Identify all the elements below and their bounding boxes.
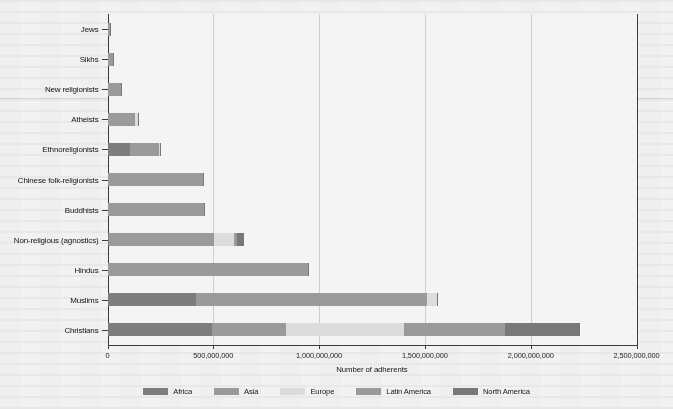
legend-item-europe[interactable]: Europe	[280, 387, 356, 396]
x-tick-label: 1,500,000,000	[402, 351, 448, 360]
bar-atheists	[108, 113, 139, 126]
bar-segment-asia	[108, 203, 203, 216]
x-tick-mark	[637, 345, 638, 349]
bar-segment-north-america	[237, 233, 244, 246]
legend-label: Latin America	[386, 387, 431, 396]
bar-chinese-folk-religionists	[108, 173, 204, 186]
right-axis-line	[637, 14, 638, 345]
y-category-label: Sikhs	[80, 55, 99, 64]
stacked-bar-chart: JewsSikhsNew religionistsAtheistsEthnore…	[0, 0, 673, 409]
x-tick-label: 2,500,000,000	[614, 351, 660, 360]
chart-legend: AfricaAsiaEuropeLatin AmericaNorth Ameri…	[0, 387, 673, 396]
y-tick-mark	[102, 210, 108, 211]
legend-label: Europe	[310, 387, 334, 396]
bar-christians	[108, 323, 581, 336]
gridline	[531, 14, 532, 345]
bar-segment-europe	[286, 323, 403, 336]
bar-segment-asia	[108, 113, 136, 126]
y-category-label: Jews	[81, 25, 99, 34]
bar-jews	[108, 23, 111, 36]
bar-hindus	[108, 263, 309, 276]
bar-segment-north-america	[505, 323, 580, 336]
y-tick-mark	[102, 59, 108, 60]
y-category-label: Ethnoreligionists	[42, 145, 98, 154]
y-tick-mark	[102, 119, 108, 120]
bar-segment-asia	[108, 173, 203, 186]
legend-swatch-icon	[356, 388, 381, 395]
y-category-label: Chinese folk-religionists	[18, 175, 99, 184]
y-tick-mark	[102, 330, 108, 331]
bar-segment-north-america	[204, 203, 205, 216]
y-tick-mark	[102, 270, 108, 271]
y-tick-mark	[102, 149, 108, 150]
legend-swatch-icon	[453, 388, 478, 395]
bar-muslims	[108, 293, 439, 306]
y-category-label: Christians	[64, 325, 98, 334]
y-tick-mark	[102, 240, 108, 241]
legend-item-asia[interactable]: Asia	[214, 387, 280, 396]
y-category-label: Non-religious (agnostics)	[14, 235, 99, 244]
x-axis-title: Number of adherents	[336, 365, 407, 374]
x-tick-label: 2,000,000,000	[508, 351, 554, 360]
y-category-label: New religionists	[45, 85, 99, 94]
legend-swatch-icon	[214, 388, 239, 395]
bar-segment-europe	[427, 293, 437, 306]
legend-swatch-icon	[143, 388, 168, 395]
bar-segment-north-america	[110, 23, 111, 36]
y-category-label: Muslims	[70, 295, 98, 304]
legend-item-north-america[interactable]: North America	[453, 387, 530, 396]
y-tick-mark	[102, 180, 108, 181]
legend-label: Asia	[244, 387, 258, 396]
x-tick-label: 1,000,000,000	[296, 351, 342, 360]
y-tick-mark	[102, 89, 108, 90]
y-category-label: Atheists	[71, 115, 98, 124]
bar-segment-asia	[130, 143, 160, 156]
y-category-label: Buddhists	[65, 205, 99, 214]
bar-segment-africa	[108, 293, 197, 306]
bar-segment-asia	[196, 293, 427, 306]
bar-non-religious-agnostics	[108, 233, 245, 246]
x-tick-label: 0	[105, 351, 109, 360]
bar-ethnoreligionists	[108, 143, 161, 156]
y-category-label: Hindus	[74, 265, 98, 274]
bar-segment-africa	[108, 323, 213, 336]
bar-segment-asia	[108, 263, 307, 276]
legend-label: North America	[483, 387, 530, 396]
x-axis-line	[108, 345, 637, 346]
bar-new-religionists	[108, 83, 122, 96]
x-tick-label: 500,000,000	[193, 351, 233, 360]
bar-segment-asia	[109, 233, 214, 246]
legend-swatch-icon	[280, 388, 305, 395]
y-tick-mark	[102, 29, 108, 30]
bar-segment-north-america	[437, 293, 438, 306]
bar-segment-africa	[108, 143, 130, 156]
legend-item-africa[interactable]: Africa	[143, 387, 214, 396]
legend-item-latin-america[interactable]: Latin America	[356, 387, 453, 396]
bar-buddhists	[108, 203, 205, 216]
bar-segment-asia	[108, 83, 121, 96]
bar-segment-asia	[212, 323, 286, 336]
bar-segment-europe	[214, 233, 234, 246]
y-tick-mark	[102, 300, 108, 301]
bar-segment-latin-america	[404, 323, 506, 336]
bar-sikhs	[108, 53, 114, 66]
legend-label: Africa	[173, 387, 192, 396]
